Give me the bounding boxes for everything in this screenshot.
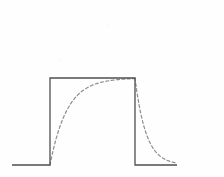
plot-background (0, 0, 224, 177)
waveform-plot (0, 0, 224, 177)
waveform-figure (0, 0, 224, 177)
